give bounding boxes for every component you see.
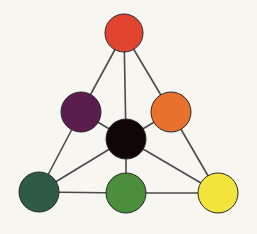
node-purple <box>61 92 101 132</box>
node-dark-green <box>19 172 59 212</box>
node-top-red <box>105 14 143 52</box>
diagram-canvas <box>0 0 257 234</box>
node-green <box>106 173 146 213</box>
nodes-group <box>19 14 238 213</box>
node-yellow <box>198 173 238 213</box>
node-orange <box>151 92 191 132</box>
node-black <box>106 119 146 159</box>
color-triangle-diagram <box>0 0 257 234</box>
